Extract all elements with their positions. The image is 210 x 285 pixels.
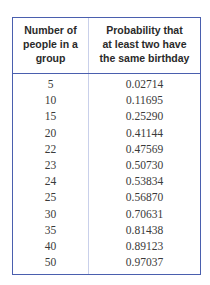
probability: 0.41144 xyxy=(89,125,200,141)
table-header: Number of people in a group Probability … xyxy=(13,18,200,74)
probability: 0.97037 xyxy=(89,254,200,270)
group-size: 50 xyxy=(13,254,88,270)
probability: 0.02714 xyxy=(89,76,200,92)
group-size: 40 xyxy=(13,238,88,254)
group-size: 22 xyxy=(13,141,88,157)
table-row: 150.25290 xyxy=(13,108,200,124)
table-row: 240.53834 xyxy=(13,173,200,189)
header-probability: Probability that at least two have the s… xyxy=(89,23,200,65)
table-row: 200.41144 xyxy=(13,125,200,141)
group-size: 5 xyxy=(13,76,88,92)
probability: 0.11695 xyxy=(89,92,200,108)
header-line: Number of xyxy=(13,23,88,37)
group-size: 35 xyxy=(13,222,88,238)
table-row: 500.97037 xyxy=(13,254,200,270)
header-line: Probability that xyxy=(89,23,200,37)
table-row: 220.47569 xyxy=(13,141,200,157)
group-size: 23 xyxy=(13,157,88,173)
group-size: 24 xyxy=(13,173,88,189)
group-size: 10 xyxy=(13,92,88,108)
group-size: 20 xyxy=(13,125,88,141)
header-line: at least two have xyxy=(89,37,200,51)
probability: 0.47569 xyxy=(89,141,200,157)
probability: 0.25290 xyxy=(89,108,200,124)
group-size: 25 xyxy=(13,189,88,205)
table-row: 250.56870 xyxy=(13,189,200,205)
table-row: 400.89123 xyxy=(13,238,200,254)
probability: 0.50730 xyxy=(89,157,200,173)
header-number-of-people: Number of people in a group xyxy=(13,23,88,65)
group-size: 15 xyxy=(13,108,88,124)
probability: 0.89123 xyxy=(89,238,200,254)
header-line: people in a xyxy=(13,37,88,51)
probability: 0.70631 xyxy=(89,206,200,222)
table-row: 350.81438 xyxy=(13,222,200,238)
table-body: 50.02714 100.11695 150.25290 200.41144 2… xyxy=(13,76,200,270)
probability: 0.81438 xyxy=(89,222,200,238)
birthday-probability-table: Number of people in a group Probability … xyxy=(12,17,201,275)
probability: 0.53834 xyxy=(89,173,200,189)
header-line: the same birthday xyxy=(89,51,200,65)
table-row: 100.11695 xyxy=(13,92,200,108)
probability: 0.56870 xyxy=(89,189,200,205)
group-size: 30 xyxy=(13,206,88,222)
table-row: 230.50730 xyxy=(13,157,200,173)
table-row: 300.70631 xyxy=(13,206,200,222)
header-line: group xyxy=(13,51,88,65)
table-row: 50.02714 xyxy=(13,76,200,92)
